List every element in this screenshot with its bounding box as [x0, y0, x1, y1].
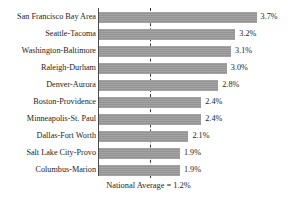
bar-row: Denver-Aurora2.8% — [0, 78, 297, 95]
value-label: 2.4% — [205, 95, 222, 108]
value-label: 3.1% — [235, 44, 252, 57]
category-label: Raleigh-Durham — [41, 61, 96, 74]
bar-fill — [99, 12, 257, 23]
bar-row: Dallas-Fort Worth2.1% — [0, 129, 297, 146]
bar-fill — [99, 131, 188, 142]
bar-fill — [99, 80, 218, 91]
bar-row: San Francisco Bay Area3.7% — [0, 10, 297, 27]
category-label: Boston-Providence — [33, 95, 96, 108]
category-label: San Francisco Bay Area — [17, 10, 96, 23]
bar-row: Salt Lake City-Provo1.9% — [0, 146, 297, 163]
value-label: 2.4% — [205, 112, 222, 125]
category-label: Dallas-Fort Worth — [37, 129, 96, 142]
value-label: 1.9% — [184, 146, 201, 159]
category-label: Columbus-Marion — [36, 163, 97, 176]
bar — [99, 114, 201, 125]
bar-fill — [99, 63, 227, 74]
bar-row: Raleigh-Durham3.0% — [0, 61, 297, 78]
value-label: 1.9% — [184, 163, 201, 176]
value-label: 2.8% — [222, 78, 239, 91]
bar — [99, 63, 227, 74]
category-label: Washington-Baltimore — [22, 44, 96, 57]
bar — [99, 131, 188, 142]
bar-row: Columbus-Marion1.9% — [0, 163, 297, 180]
bar-row: Boston-Providence2.4% — [0, 95, 297, 112]
category-label: Seattle-Tacoma — [45, 27, 96, 40]
bar-fill — [99, 114, 201, 125]
value-label: 3.0% — [231, 61, 248, 74]
national-average-caption: National Average = 1.2% — [0, 181, 297, 190]
plot-area: San Francisco Bay Area3.7%Seattle-Tacoma… — [0, 0, 297, 203]
bar-row: Minneapolis-St. Paul2.4% — [0, 112, 297, 129]
value-label: 2.1% — [192, 129, 209, 142]
bar — [99, 165, 180, 176]
category-label: Denver-Aurora — [46, 78, 96, 91]
bar — [99, 46, 231, 57]
bar-fill — [99, 165, 180, 176]
bar — [99, 29, 235, 40]
bar — [99, 148, 180, 159]
bar — [99, 80, 218, 91]
bar-rows: San Francisco Bay Area3.7%Seattle-Tacoma… — [0, 10, 297, 180]
category-label: Minneapolis-St. Paul — [27, 112, 96, 125]
bar-fill — [99, 29, 235, 40]
bar-fill — [99, 148, 180, 159]
bar-fill — [99, 46, 231, 57]
bar-fill — [99, 97, 201, 108]
value-label: 3.2% — [239, 27, 256, 40]
bar-chart: San Francisco Bay Area3.7%Seattle-Tacoma… — [0, 0, 297, 203]
bar — [99, 12, 257, 23]
bar-row: Seattle-Tacoma3.2% — [0, 27, 297, 44]
category-label: Salt Lake City-Provo — [26, 146, 96, 159]
value-label: 3.7% — [261, 10, 278, 23]
bar-row: Washington-Baltimore3.1% — [0, 44, 297, 61]
bar — [99, 97, 201, 108]
